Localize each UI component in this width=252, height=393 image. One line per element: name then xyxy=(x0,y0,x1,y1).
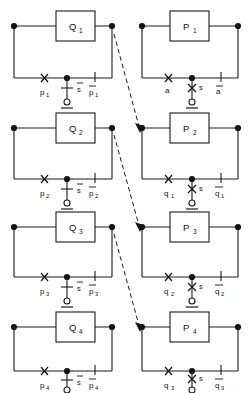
cell-q4-right-node xyxy=(109,324,115,330)
cell-p1-box-sub: 1 xyxy=(193,27,197,34)
cell-q4-box-label: Q xyxy=(69,322,76,333)
cell-p4-box-sub: 4 xyxy=(193,328,197,335)
cell-p1-box-label: P xyxy=(183,21,189,32)
cell-q4-box-sub: 4 xyxy=(79,328,83,335)
cell-p3-box-sub: 3 xyxy=(193,228,197,235)
cell-q3-right-label: p xyxy=(89,287,94,296)
cell-q2-box-label: Q xyxy=(69,123,76,134)
cell-p3-right-sub: 2 xyxy=(221,291,224,297)
cell-q4-right-label: p xyxy=(89,381,94,390)
cell-p3-open-terminal-icon xyxy=(189,298,195,304)
cell-p4-right-label: q xyxy=(215,381,219,390)
cell-p4-box[interactable] xyxy=(170,312,209,342)
cell-q1-right-sub: 1 xyxy=(95,92,98,98)
cell-q1-left-sub: 1 xyxy=(46,92,49,98)
cell-p1-left-node xyxy=(139,23,145,29)
cell-q3-left-sub: 3 xyxy=(46,291,49,297)
cell-q2-right-label: p xyxy=(89,189,94,198)
cell-q2-left-sub: 2 xyxy=(46,193,49,199)
cell-q3-box-sub: 3 xyxy=(79,228,83,235)
cell-p3-right-label: q xyxy=(215,287,219,296)
cell-q1-box-sub: 1 xyxy=(79,27,83,34)
cell-p2-left-sub: 1 xyxy=(171,193,174,199)
cell-p2: P 2 q 1 s q 1 xyxy=(139,113,241,209)
cell-p3-center-label: s xyxy=(199,282,203,291)
cell-q3-open-terminal-icon xyxy=(64,298,70,304)
cell-p3-right-node xyxy=(235,224,241,230)
cell-p4-open-terminal-icon xyxy=(189,387,195,393)
connector-q2-to-p3 xyxy=(114,135,143,232)
cell-p4-left-sub: 3 xyxy=(171,385,174,391)
cell-q2: Q 2 p 2 s p 2 xyxy=(11,113,115,209)
cell-q4-center-label: s xyxy=(77,378,81,387)
cell-p2-right-sub: 1 xyxy=(221,193,224,199)
connector-q3-to-p4-line xyxy=(114,234,140,329)
cell-q4-right-sub: 4 xyxy=(95,385,99,391)
cell-p2-box[interactable] xyxy=(170,113,209,143)
cell-q2-open-terminal-icon xyxy=(64,200,70,206)
connector-q1-to-p2 xyxy=(114,34,143,133)
cell-q1-open-terminal-icon xyxy=(64,99,70,105)
cell-q1-center-label: s xyxy=(77,85,81,94)
cell-p2-box-sub: 2 xyxy=(193,129,197,136)
cell-p4-left-label: q xyxy=(164,381,168,390)
cell-q2-right-sub: 2 xyxy=(95,193,98,199)
cell-q1-left-label: p xyxy=(40,88,45,97)
cell-p2-box-label: P xyxy=(183,123,189,134)
cell-q3-box-label: Q xyxy=(69,222,76,233)
cell-p4-right-sub: 3 xyxy=(221,385,224,391)
cell-q1-right-node xyxy=(109,23,115,29)
cell-q3: Q 3 p 3 s p 3 xyxy=(11,212,115,307)
circuit-canvas: Q 1 p 1 s p 1 P 1 a s a xyxy=(0,0,252,393)
cell-q4-left-label: p xyxy=(40,381,45,390)
cell-p4-center-label: s xyxy=(199,374,203,383)
cell-q4-left-sub: 4 xyxy=(46,385,50,391)
cell-q4-open-terminal-icon xyxy=(64,387,70,393)
cell-q2-center-label: s xyxy=(77,186,81,195)
cell-p1: P 1 a s a xyxy=(139,11,241,108)
cell-p1-right-node xyxy=(235,23,241,29)
cell-q2-right-node xyxy=(109,125,115,131)
cell-q3-right-sub: 3 xyxy=(95,291,98,297)
circuit-diagram: Q 1 p 1 s p 1 P 1 a s a xyxy=(0,0,252,393)
cell-q1-box-label: Q xyxy=(69,21,76,32)
cell-p2-left-label: q xyxy=(164,189,168,198)
cell-q1: Q 1 p 1 s p 1 xyxy=(11,11,115,108)
cell-q4: Q 4 p 4 s p 4 xyxy=(11,312,115,393)
cell-p4: P 4 q 3 s q 3 xyxy=(139,312,241,393)
cell-p4-box-label: P xyxy=(183,322,189,333)
cell-q3-left-label: p xyxy=(40,287,45,296)
cell-q2-left-node xyxy=(11,125,17,131)
cell-p1-open-terminal-icon xyxy=(189,99,195,105)
connector-q1-to-p2-line xyxy=(114,34,140,130)
cell-q4-left-node xyxy=(11,324,17,330)
cell-p3-box-label: P xyxy=(183,222,189,233)
cell-p1-right-label: a xyxy=(216,87,221,96)
cell-p1-center-label: s xyxy=(199,83,203,92)
cell-p2-center-label: s xyxy=(199,184,203,193)
cell-p1-left-label: a xyxy=(165,86,170,95)
cell-p2-right-node xyxy=(235,125,241,131)
connector-q3-to-p4 xyxy=(114,234,143,332)
cell-p4-right-node xyxy=(235,324,241,330)
cell-q1-left-node xyxy=(11,23,17,29)
cell-q1-right-label: p xyxy=(89,88,94,97)
cell-p3: P 3 q 2 s q 2 xyxy=(139,212,241,307)
cell-q3-left-node xyxy=(11,224,17,230)
cell-p2-open-terminal-icon xyxy=(189,200,195,206)
cell-p1-box[interactable] xyxy=(170,11,209,41)
connector-q2-to-p3-line xyxy=(114,135,140,229)
cell-q2-left-label: p xyxy=(40,189,45,198)
cell-q3-right-node xyxy=(109,224,115,230)
cell-q2-box-sub: 2 xyxy=(79,129,83,136)
cell-p3-box[interactable] xyxy=(170,212,209,242)
cell-p3-left-label: q xyxy=(164,287,168,296)
cell-p2-right-label: q xyxy=(215,189,219,198)
cell-q3-center-label: s xyxy=(77,284,81,293)
cell-p3-left-sub: 2 xyxy=(171,291,174,297)
